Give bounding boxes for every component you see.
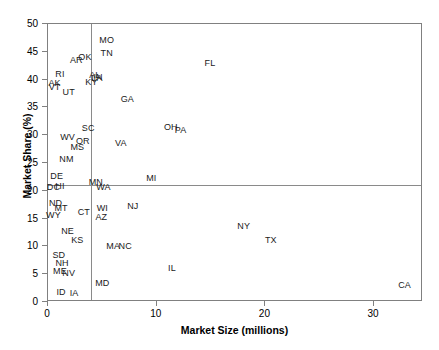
y-tick-label: 45	[12, 45, 38, 56]
y-tick-label: 30	[12, 129, 38, 140]
data-point-nv: NV	[62, 269, 75, 278]
plot-area: MOTNAROKFLRIALINLAKYAKVTUTGAOHPASCWVORVA…	[47, 23, 422, 301]
y-tick-label: 5	[12, 268, 38, 279]
y-tick-label: 15	[12, 212, 38, 223]
y-tick-label: 20	[12, 184, 38, 195]
data-point-il: IL	[168, 264, 176, 273]
vertical-reference-line	[91, 24, 92, 300]
y-tick-label: 0	[12, 296, 38, 307]
data-point-tx: TX	[265, 235, 277, 244]
data-point-tn: TN	[101, 48, 113, 57]
data-point-hi: HI	[55, 182, 64, 191]
data-point-nj: NJ	[127, 202, 138, 211]
data-point-ga: GA	[121, 94, 134, 103]
data-point-ia: IA	[70, 288, 79, 297]
data-point-nm: NM	[59, 155, 73, 164]
data-point-ks: KS	[71, 235, 83, 244]
y-tick-label: 50	[12, 18, 38, 29]
y-tick-label: 35	[12, 101, 38, 112]
data-point-ct: CT	[78, 207, 90, 216]
data-point-ny: NY	[237, 222, 250, 231]
data-point-ut: UT	[63, 87, 75, 96]
y-tick-label: 25	[12, 157, 38, 168]
data-point-sc: SC	[82, 123, 95, 132]
data-point-id: ID	[56, 287, 65, 296]
x-tick	[264, 301, 265, 306]
x-tick	[373, 301, 374, 306]
data-point-ky: KY	[85, 77, 97, 86]
data-point-fl: FL	[205, 58, 216, 67]
x-tick	[47, 301, 48, 306]
data-point-md: MD	[95, 279, 109, 288]
data-point-wa: WA	[96, 183, 110, 192]
data-point-ms: MS	[70, 143, 84, 152]
x-tick	[156, 301, 157, 306]
y-tick-label: 10	[12, 240, 38, 251]
data-point-ca: CA	[398, 280, 411, 289]
scatter-chart-figure: Market Share (%) 05101520253035404550 01…	[0, 0, 439, 350]
y-tick-label: 40	[12, 73, 38, 84]
data-point-nc: NC	[119, 242, 132, 251]
data-point-wy: WY	[46, 211, 61, 220]
data-point-vt: VT	[49, 83, 61, 92]
data-point-ok: OK	[78, 53, 91, 62]
data-point-wv: WV	[60, 133, 75, 142]
data-point-az: AZ	[95, 213, 107, 222]
x-axis-title: Market Size (millions)	[47, 324, 422, 336]
data-point-mi: MI	[146, 174, 156, 183]
x-tick-label: 0	[44, 308, 50, 319]
data-point-mo: MO	[99, 35, 114, 44]
x-tick-label: 20	[259, 308, 270, 319]
y-axis-tick-labels: 05101520253035404550	[12, 0, 38, 350]
data-point-pa: PA	[175, 125, 187, 134]
data-point-de: DE	[50, 172, 63, 181]
x-tick-label: 30	[368, 308, 379, 319]
data-point-va: VA	[115, 138, 127, 147]
x-tick-label: 10	[150, 308, 161, 319]
